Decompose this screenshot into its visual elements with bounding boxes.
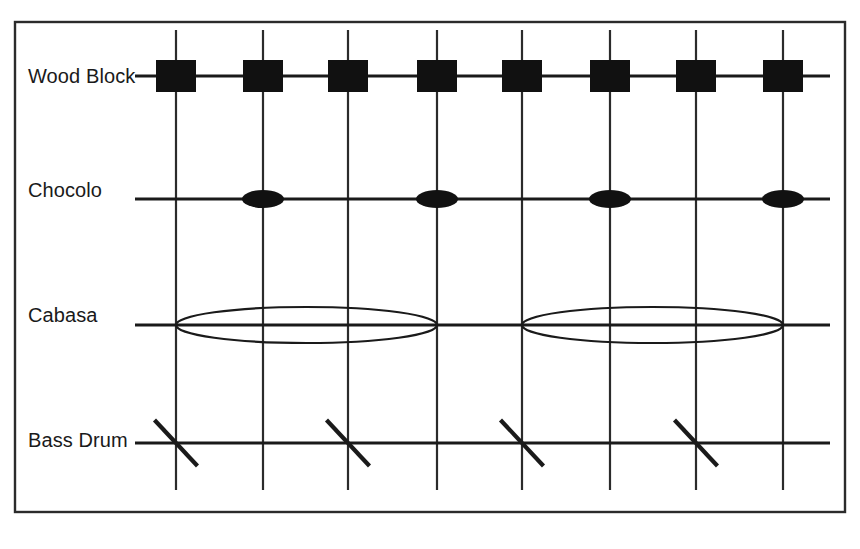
figure-border <box>15 22 845 512</box>
note-wood-block-6 <box>590 60 630 92</box>
note-wood-block-2 <box>243 60 283 92</box>
note-wood-block-8 <box>763 60 803 92</box>
note-wood-block-4 <box>417 60 457 92</box>
note-chocolo-1 <box>242 190 284 208</box>
staff-lines <box>135 76 830 443</box>
staff-label-cabasa: Cabasa <box>28 304 98 326</box>
note-wood-block-3 <box>328 60 368 92</box>
note-wood-block-1 <box>156 60 196 92</box>
note-chocolo-2 <box>416 190 458 208</box>
note-wood-block-5 <box>502 60 542 92</box>
staff-label-chocolo: Chocolo <box>28 179 102 201</box>
staff-label-wood-block: Wood Block <box>28 65 136 87</box>
note-chocolo-4 <box>762 190 804 208</box>
rhythm-grid-canvas: Wood Block Chocolo Cabasa Bass Drum <box>0 0 860 549</box>
beat-gridlines <box>176 30 783 490</box>
note-wood-block-7 <box>676 60 716 92</box>
note-glyphs <box>155 60 805 466</box>
staff-label-bass-drum: Bass Drum <box>28 429 128 451</box>
percussion-rhythm-figure: Wood Block Chocolo Cabasa Bass Drum <box>0 0 860 549</box>
note-chocolo-3 <box>589 190 631 208</box>
